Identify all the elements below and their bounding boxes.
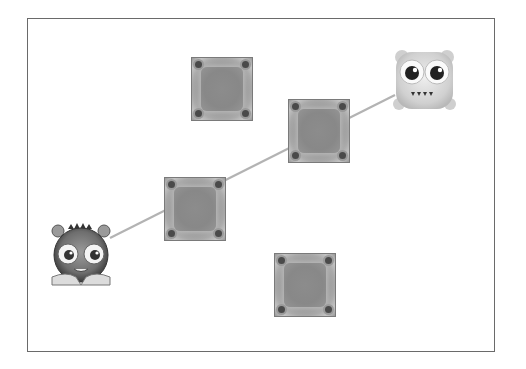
- bolt-icon: [278, 306, 285, 313]
- bolt-icon: [292, 103, 299, 110]
- bolt-icon: [215, 181, 222, 188]
- bolt-icon: [168, 181, 175, 188]
- bolt-icon: [242, 110, 249, 117]
- player-monster-icon[interactable]: [50, 221, 112, 287]
- bolt-icon: [168, 230, 175, 237]
- block-panel: [284, 263, 326, 307]
- metal-block[interactable]: [274, 253, 336, 317]
- bolt-icon: [278, 257, 285, 264]
- block-panel: [298, 109, 340, 153]
- bolt-icon: [339, 152, 346, 159]
- bolt-icon: [339, 103, 346, 110]
- block-panel: [174, 187, 216, 231]
- metal-block[interactable]: [164, 177, 226, 241]
- bolt-icon: [195, 110, 202, 117]
- bolt-icon: [325, 306, 332, 313]
- bolt-icon: [195, 61, 202, 68]
- bolt-icon: [325, 257, 332, 264]
- metal-block[interactable]: [288, 99, 350, 163]
- target-monster-icon[interactable]: [393, 48, 456, 113]
- bolt-icon: [215, 230, 222, 237]
- bolt-icon: [292, 152, 299, 159]
- bolt-icon: [242, 61, 249, 68]
- block-panel: [201, 67, 243, 111]
- metal-block[interactable]: [191, 57, 253, 121]
